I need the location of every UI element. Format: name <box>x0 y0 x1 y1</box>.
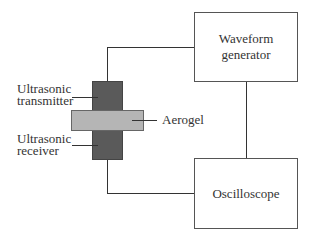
transmitter-label-line2: transmitter <box>17 95 73 107</box>
aerogel-label: Aerogel <box>162 114 204 126</box>
wire-transmitter-up <box>107 47 108 81</box>
transmitter-label: Ultrasonic transmitter <box>17 83 73 107</box>
waveform-generator-box: Waveform generator <box>194 12 298 82</box>
transmitter-leader-line <box>72 97 98 98</box>
receiver-leader-line <box>72 145 98 146</box>
receiver-label: Ultrasonic receiver <box>17 133 71 157</box>
wire-bottom-horizontal <box>107 193 194 194</box>
aerogel-leader-line <box>132 120 157 121</box>
waveform-generator-label-line1: Waveform <box>219 31 274 47</box>
oscilloscope-label: Oscilloscope <box>212 186 279 202</box>
receiver-label-line2: receiver <box>17 145 71 157</box>
oscilloscope-box: Oscilloscope <box>194 158 298 229</box>
ultrasonic-transmitter-block <box>92 81 123 111</box>
wire-receiver-down <box>107 159 108 194</box>
wire-generator-to-oscilloscope <box>246 81 247 158</box>
waveform-generator-label-line2: generator <box>219 47 274 63</box>
wire-top-horizontal <box>107 47 194 48</box>
